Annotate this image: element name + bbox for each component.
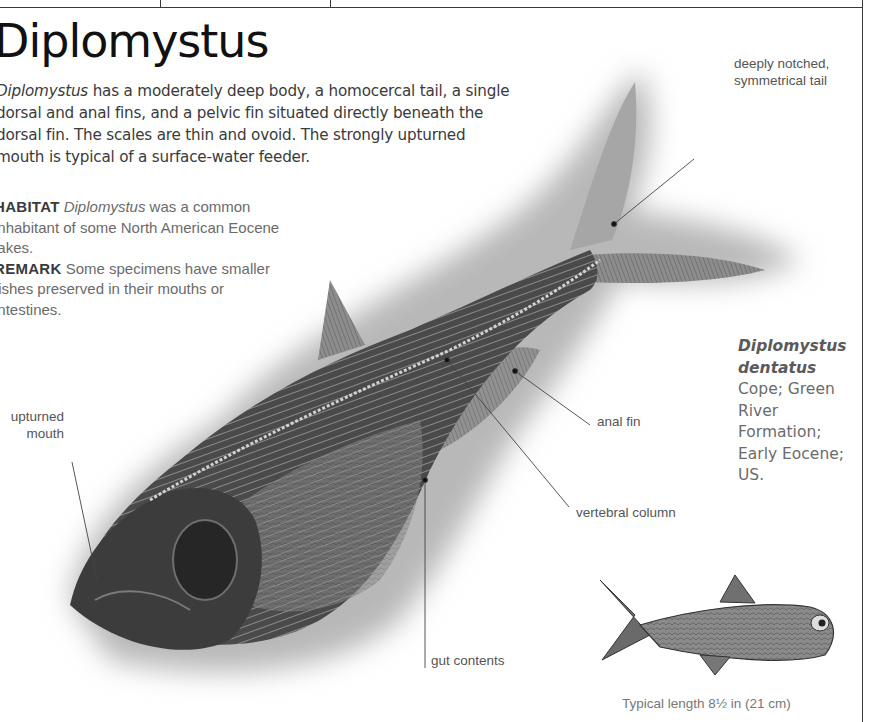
callout-vertebral-column: vertebral column	[576, 505, 676, 522]
genus-name: Diplomystus	[0, 82, 88, 100]
remark-keyword: REMARK	[0, 260, 62, 277]
habitat-keyword: HABITAT	[0, 198, 60, 215]
callout-tail: deeply notched, symmetrical tail	[734, 56, 844, 89]
reconstruction-illustration	[600, 575, 833, 675]
notes-block: HABITATDiplomystus was a common inhabita…	[0, 197, 294, 320]
habitat-genus: Diplomystus	[64, 198, 146, 215]
eye-orbit	[173, 520, 237, 600]
callout-anal-fin: anal fin	[597, 414, 641, 431]
remark-note: REMARKSome specimens have smaller fishes…	[0, 259, 294, 321]
species-name: Diplomystus dentatus	[738, 337, 846, 377]
callout-mouth: upturned mouth	[0, 409, 64, 442]
habitat-note: HABITATDiplomystus was a common inhabita…	[0, 197, 294, 259]
specimen-details: Cope; Green River Formation; Early Eocen…	[738, 380, 844, 484]
callout-gut-contents: gut contents	[431, 653, 505, 670]
specimen-caption: Diplomystus dentatus Cope; Green River F…	[738, 336, 858, 487]
page-title: Diplomystus	[0, 14, 268, 68]
intro-paragraph: Diplomystus has a moderately deep body, …	[0, 80, 516, 168]
typical-length-caption: Typical length 8½ in (21 cm)	[622, 696, 791, 711]
